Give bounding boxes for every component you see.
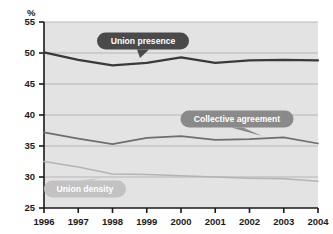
callout-union-density: Union density bbox=[44, 178, 126, 198]
y-tick-label: 45 bbox=[24, 78, 35, 89]
x-tick-label: 1999 bbox=[136, 216, 157, 227]
x-tick-label: 2001 bbox=[205, 216, 227, 227]
y-tick-label: 25 bbox=[24, 202, 35, 213]
x-tick-label: 2000 bbox=[170, 216, 191, 227]
x-tick-label: 1998 bbox=[102, 216, 123, 227]
y-tick-label: 55 bbox=[24, 16, 35, 27]
line-chart: 25303540455055 1996199719981999200020012… bbox=[0, 0, 333, 234]
y-tick-label: 40 bbox=[24, 109, 35, 120]
callout-label: Union density bbox=[57, 184, 114, 194]
x-tick-label: 1996 bbox=[33, 216, 54, 227]
x-tick-label: 2004 bbox=[307, 216, 329, 227]
y-tick-label: 30 bbox=[24, 171, 35, 182]
y-tick-label: 35 bbox=[24, 140, 35, 151]
x-axis-tick-labels: 199619971998199920002001200220032004 bbox=[33, 216, 329, 227]
x-tick-label: 2002 bbox=[239, 216, 260, 227]
callout-label: Collective agreement bbox=[194, 114, 281, 124]
x-tick-label: 2003 bbox=[273, 216, 294, 227]
x-tick-label: 1997 bbox=[68, 216, 89, 227]
y-axis-unit-label: % bbox=[27, 7, 36, 18]
callout-label: Union presence bbox=[111, 36, 176, 46]
chart-container: 25303540455055 1996199719981999200020012… bbox=[0, 0, 333, 234]
y-tick-label: 50 bbox=[24, 47, 35, 58]
